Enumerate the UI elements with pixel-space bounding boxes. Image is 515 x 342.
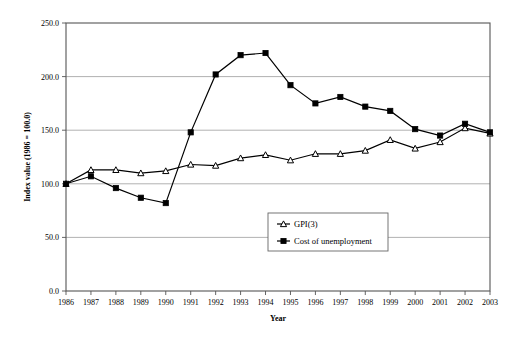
data-point [387,137,393,143]
data-point [113,185,118,190]
data-point [238,53,243,58]
data-point [163,200,168,205]
x-tick-label: 1994 [258,298,274,307]
line-chart: 0.050.0100.0150.0200.0250.01986198719881… [0,0,515,342]
legend: GPI(3)Cost of unemployment [268,213,388,251]
legend-item-label: Cost of unemployment [294,236,373,246]
x-tick-label: 1993 [233,298,249,307]
data-point [338,94,343,99]
x-tick-label: 1998 [357,298,373,307]
data-point [413,127,418,132]
x-tick-label: 1987 [83,298,99,307]
series-gpi-3 [63,125,493,186]
y-tick-label: 250.0 [41,19,59,28]
data-point [487,130,492,135]
x-tick-label: 2001 [432,298,448,307]
y-tick-label: 200.0 [41,73,59,82]
x-tick-label: 1999 [382,298,398,307]
y-tick-label: 0.0 [49,287,59,296]
x-tick-label: 1986 [58,298,74,307]
x-tick-label: 2002 [457,298,473,307]
data-point [388,108,393,113]
x-tick-label: 1997 [332,298,348,307]
x-axis-title: Year [270,314,286,323]
y-tick-label: 150.0 [41,126,59,135]
chart-container: 0.050.0100.0150.0200.0250.01986198719881… [0,0,515,342]
x-tick-label: 1990 [158,298,174,307]
series-line [66,53,490,203]
x-tick-label: 1996 [307,298,323,307]
x-tick-label: 1989 [133,298,149,307]
data-point [138,195,143,200]
data-point [288,83,293,88]
x-tick-label: 2003 [482,298,498,307]
data-point [437,139,443,145]
x-tick-label: 1992 [208,298,224,307]
x-axis: 1986198719881989199019911992199319941995… [58,291,498,307]
data-point [363,104,368,109]
legend-item-label: GPI(3) [294,219,318,229]
data-point [63,181,68,186]
data-point [462,121,467,126]
data-point [213,72,218,77]
x-tick-label: 1988 [108,298,124,307]
y-tick-label: 50.0 [45,233,59,242]
series-cost-of-unemployment [63,50,492,205]
y-axis-title: Index value (1986 = 100.0) [23,112,32,202]
y-tick-label: 100.0 [41,180,59,189]
data-point [88,174,93,179]
data-point [438,133,443,138]
x-tick-label: 1995 [282,298,298,307]
data-point [263,50,268,55]
legend-marker-icon [281,238,286,243]
data-point [313,101,318,106]
x-tick-label: 1991 [183,298,199,307]
x-tick-label: 2000 [407,298,423,307]
series-line [66,128,490,184]
data-point [188,130,193,135]
